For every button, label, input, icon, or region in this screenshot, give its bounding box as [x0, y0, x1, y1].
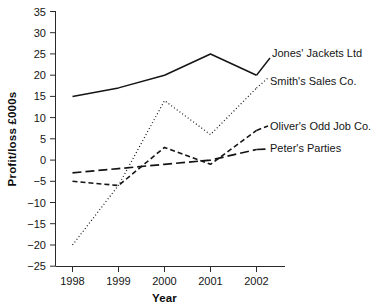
x-tick-label: 1999 — [106, 275, 130, 287]
series-label-jones-jackets-ltd: Jones' Jackets Ltd — [272, 47, 362, 59]
y-axis-tick-labels: 35 30 25 20 15 10 5 0 −5 −10 −15 −20 −25 — [27, 6, 46, 273]
x-axis-tick-labels: 1998 1999 2000 2001 2002 — [60, 275, 268, 287]
leader-line-olivers — [257, 126, 269, 130]
leader-line-smiths — [257, 78, 269, 88]
series-line-smiths-sales-co — [73, 88, 257, 245]
y-tick-label: −15 — [27, 218, 46, 230]
leader-line-peters — [257, 149, 269, 150]
y-axis-ticks — [50, 12, 56, 267]
y-tick-label: 10 — [34, 112, 46, 124]
series-label-olivers-odd-job-co: Oliver's Odd Job Co. — [270, 120, 371, 132]
y-tick-label: 20 — [34, 69, 46, 81]
line-chart: 35 30 25 20 15 10 5 0 −5 −10 −15 −20 −25… — [0, 0, 371, 308]
y-tick-label: 15 — [34, 90, 46, 102]
series-line-jones-jackets-ltd — [73, 54, 257, 96]
series-label-peters-parties: Peter's Parties — [270, 142, 342, 154]
x-tick-label: 2000 — [152, 275, 176, 287]
x-tick-label: 1998 — [60, 275, 84, 287]
y-tick-label: 30 — [34, 27, 46, 39]
y-tick-label: 0 — [40, 154, 46, 166]
series-line-peters-parties — [73, 150, 257, 173]
series-line-olivers-odd-job-co — [73, 130, 257, 185]
leader-line-jones — [257, 58, 271, 75]
chart-canvas: 35 30 25 20 15 10 5 0 −5 −10 −15 −20 −25… — [0, 0, 371, 308]
y-tick-label: 35 — [34, 6, 46, 18]
x-axis-title: Year — [152, 292, 177, 304]
y-tick-label: 25 — [34, 48, 46, 60]
y-tick-label: −10 — [27, 197, 46, 209]
x-axis-ticks — [73, 267, 257, 273]
y-axis-title: Profit/loss £000s — [6, 92, 18, 187]
y-tick-label: −20 — [27, 239, 46, 251]
y-tick-label: −5 — [33, 175, 46, 187]
y-tick-label: 5 — [40, 133, 46, 145]
series-label-smiths-sales-co: Smith's Sales Co. — [270, 75, 356, 87]
x-tick-label: 2001 — [198, 275, 222, 287]
y-tick-label: −25 — [27, 260, 46, 272]
x-tick-label: 2002 — [244, 275, 268, 287]
